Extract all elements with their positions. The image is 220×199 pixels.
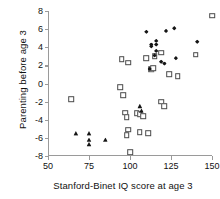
y-tick-label: 2	[38, 60, 43, 70]
x-tick-mark	[89, 156, 90, 160]
data-point-open-square	[145, 131, 151, 137]
scatter-plot-figure: Parenting before age 3 Stanford-Binet IQ…	[0, 0, 220, 199]
data-point-filled-triangle	[87, 137, 92, 142]
data-point-filled-diamond	[144, 30, 148, 34]
data-point-filled-triangle	[87, 131, 92, 136]
data-point-open-square	[140, 113, 146, 119]
y-tick-mark	[45, 29, 49, 30]
y-tick-mark	[45, 65, 49, 66]
y-tick-mark	[45, 138, 49, 139]
data-point-filled-diamond	[154, 42, 158, 46]
data-point-filled-triangle	[87, 142, 92, 147]
x-tick-mark	[212, 156, 213, 160]
y-tick-mark	[45, 11, 49, 12]
data-point-filled-triangle	[73, 131, 78, 136]
data-point-open-square	[144, 55, 150, 61]
data-point-open-square	[150, 65, 156, 71]
data-point-open-square	[162, 103, 168, 109]
y-tick-label: -2	[35, 97, 43, 107]
x-tick-label: 150	[204, 161, 219, 171]
data-point-open-square	[124, 132, 130, 138]
y-axis-label: Parenting before age 3	[17, 5, 28, 155]
data-point-open-square	[127, 150, 133, 156]
data-point-open-square	[119, 56, 125, 62]
data-point-open-square	[137, 130, 143, 136]
y-tick-label: 8	[38, 6, 43, 16]
x-axis-label: Stanford-Binet IQ score at age 3	[28, 180, 218, 191]
data-point-open-square	[167, 72, 173, 78]
data-point-open-square	[175, 73, 181, 79]
data-point-open-square	[209, 13, 215, 19]
data-point-open-square	[158, 50, 164, 56]
data-point-open-square	[68, 96, 74, 102]
y-tick-label: 0	[38, 79, 43, 89]
x-tick-mark	[171, 156, 172, 160]
y-tick-mark	[45, 102, 49, 103]
y-tick-label: 4	[38, 42, 43, 52]
data-point-open-square	[124, 114, 130, 120]
x-tick-label: 75	[84, 161, 94, 171]
x-tick-label: 125	[163, 161, 178, 171]
x-tick-mark	[48, 156, 49, 160]
y-tick-label: -8	[35, 151, 43, 161]
data-point-open-square	[126, 60, 132, 66]
y-tick-mark	[45, 84, 49, 85]
data-point-open-square	[121, 92, 127, 98]
y-tick-label: -4	[35, 115, 43, 125]
data-point-filled-diamond	[172, 26, 176, 30]
data-point-filled-triangle	[137, 104, 142, 109]
data-point-filled-diamond	[195, 40, 199, 44]
y-tick-label: -6	[35, 133, 43, 143]
x-tick-label: 100	[122, 161, 137, 171]
data-point-filled-triangle	[103, 137, 108, 142]
data-point-open-square	[117, 84, 123, 90]
y-tick-label: 6	[38, 24, 43, 34]
y-tick-mark	[45, 47, 49, 48]
x-tick-label: 50	[43, 161, 53, 171]
y-tick-mark	[45, 120, 49, 121]
x-tick-mark	[130, 156, 131, 160]
plot-area: -8-6-4-202468 5075100125150	[48, 11, 212, 156]
data-point-open-square	[193, 52, 199, 58]
data-point-filled-diamond	[174, 56, 178, 60]
data-point-filled-diamond	[164, 29, 168, 33]
